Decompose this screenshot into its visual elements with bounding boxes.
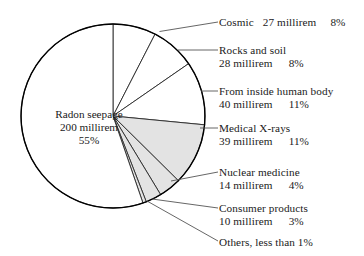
callout-others: Others, less than 1%: [219, 236, 313, 249]
callout-medical-xrays-name: Medical X-rays: [219, 122, 309, 135]
callout-consumer-name: Consumer products: [219, 202, 308, 215]
callout-rocks-soil-amount: 28 millirem: [219, 57, 273, 70]
callout-medical-xrays: Medical X-rays 39 millirem11%: [219, 122, 309, 147]
callout-medical-xrays-percent: 11%: [289, 135, 309, 148]
callout-cosmic-name: Cosmic: [219, 16, 254, 28]
leader-cosmic: [160, 22, 219, 32]
callout-consumer-percent: 3%: [289, 215, 304, 228]
callout-human-body-amount: 40 millirem: [219, 98, 273, 111]
callout-medical-xrays-amount: 39 millirem: [219, 135, 273, 148]
callout-nuclear-med-percent: 4%: [289, 179, 304, 192]
callout-nuclear-med: Nuclear medicine 14 millirem4%: [219, 166, 304, 191]
callout-rocks-soil-name: Rocks and soil: [219, 44, 304, 57]
center-label-line3: 55%: [29, 134, 149, 147]
callout-human-body-name: From inside human body: [219, 85, 333, 98]
pie-chart: Radon seepage 200 millirem 55% Cosmic27 …: [0, 0, 364, 256]
callout-medical-xrays-line2: 39 millirem11%: [219, 135, 309, 148]
center-label-radon-seepage: Radon seepage 200 millirem 55%: [29, 108, 149, 147]
center-label-line1: Radon seepage: [29, 108, 149, 121]
callout-cosmic-percent: 8%: [330, 16, 345, 29]
callout-human-body-line2: 40 millirem11%: [219, 98, 333, 111]
center-label-line2: 200 millirem: [29, 121, 149, 134]
callout-cosmic-amount: 27 millirem: [263, 16, 317, 29]
callout-consumer-line2: 10 millirem3%: [219, 215, 308, 228]
callout-nuclear-med-name: Nuclear medicine: [219, 166, 304, 179]
callout-cosmic: Cosmic27 millirem8%: [219, 16, 346, 29]
callout-consumer: Consumer products 10 millirem3%: [219, 202, 308, 227]
callout-others-name: Others, less than 1%: [219, 236, 313, 249]
callout-consumer-amount: 10 millirem: [219, 215, 273, 228]
callout-nuclear-med-line2: 14 millirem4%: [219, 179, 304, 192]
leader-consumer: [152, 199, 218, 208]
callout-rocks-soil: Rocks and soil 28 millirem8%: [219, 44, 304, 69]
callout-cosmic-line1: Cosmic27 millirem8%: [219, 16, 346, 29]
callout-human-body: From inside human body 40 millirem11%: [219, 85, 333, 110]
callout-nuclear-med-amount: 14 millirem: [219, 179, 273, 192]
callout-human-body-percent: 11%: [289, 98, 309, 111]
callout-rocks-soil-percent: 8%: [289, 57, 304, 70]
callout-rocks-soil-line2: 28 millirem8%: [219, 57, 304, 70]
